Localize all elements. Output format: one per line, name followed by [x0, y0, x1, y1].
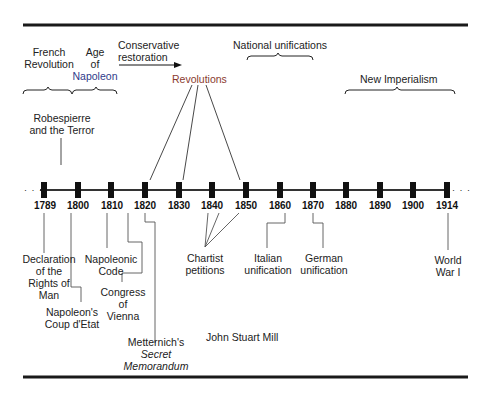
label-robespierre: Robespierre and the Terror [22, 112, 102, 136]
tick-1810 [108, 182, 114, 198]
tick-1800 [75, 182, 81, 198]
tick-1830 [176, 182, 182, 198]
label-world-war-i: World War I [430, 254, 466, 278]
year-label: 1890 [369, 200, 391, 211]
label-national-unifications: National unifications [233, 39, 327, 51]
year-label: 1914 [436, 200, 458, 211]
year-label: 1860 [269, 200, 291, 211]
tick-1914 [444, 182, 450, 198]
tick-1850 [243, 182, 249, 198]
year-label: 1810 [101, 200, 123, 211]
label-age-of-napoleon: Age of Napoleon [72, 46, 118, 82]
label-chartist-petitions: Chartist petitions [181, 252, 229, 276]
label-french-revolution: French Revolution [24, 46, 74, 70]
label-napoleons-coup: Napoleon's Coup d'Etat [40, 306, 104, 330]
label-declaration-rights-of-man: Declaration of the Rights of Man [19, 253, 79, 301]
label-conservative-restoration: Conservative restoration [118, 39, 179, 63]
label-italian-unification: Italian unification [243, 252, 293, 276]
year-label: 1830 [168, 200, 190, 211]
continues-right-ellipsis: · · · [452, 184, 471, 196]
tick-1820 [142, 182, 148, 198]
year-label: 1870 [302, 200, 324, 211]
year-label: 1789 [34, 200, 56, 211]
label-congress-of-vienna: Congress of Vienna [97, 286, 149, 322]
year-label: 1850 [235, 200, 257, 211]
year-label: 1800 [67, 200, 89, 211]
tick-1860 [277, 182, 283, 198]
label-john-stuart-mill: John Stuart Mill [206, 331, 278, 343]
label-german-unification: German unification [299, 252, 349, 276]
year-label: 1820 [134, 200, 156, 211]
year-label: 1840 [201, 200, 223, 211]
tick-1789 [41, 182, 47, 198]
tick-1890 [377, 182, 383, 198]
year-label: 1900 [402, 200, 424, 211]
tick-1900 [410, 182, 416, 198]
tick-1840 [209, 182, 215, 198]
year-label: 1880 [335, 200, 357, 211]
label-revolutions: Revolutions [172, 73, 227, 85]
tick-1870 [310, 182, 316, 198]
tick-1880 [343, 182, 349, 198]
label-metternich-memorandum: Metternich's Secret Memorandum [122, 336, 190, 372]
label-napoleonic-code: Napoleonic Code [82, 253, 140, 277]
label-new-imperialism: New Imperialism [360, 73, 438, 85]
